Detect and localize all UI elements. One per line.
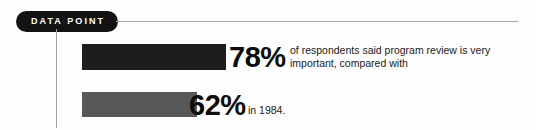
- stat-caption-secondary: in 1984.: [248, 104, 368, 117]
- data-point-callout: DATA POINT 78% of respondents said progr…: [0, 0, 536, 130]
- stat-value-secondary: 62%: [189, 90, 246, 120]
- header-divider: [116, 21, 518, 22]
- left-vertical-divider: [56, 29, 57, 128]
- stat-bar-primary: [82, 44, 226, 70]
- stat-value-primary: 78%: [229, 42, 286, 72]
- stat-caption-primary: of respondents said program review is ve…: [290, 44, 506, 70]
- data-point-badge-label: DATA POINT: [16, 11, 118, 32]
- stat-bar-secondary: [82, 92, 197, 117]
- data-point-badge: DATA POINT: [16, 11, 118, 32]
